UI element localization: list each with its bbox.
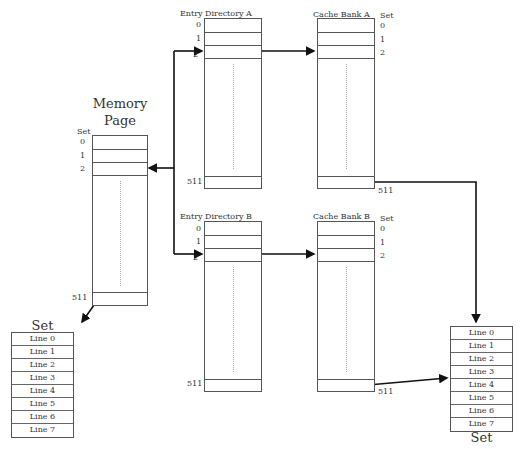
entry-dir-a-row-2 (205, 45, 261, 59)
memory-page-index-0: 0 (80, 137, 85, 146)
memory-page-box (92, 135, 148, 306)
entry-dir-b-index-0: 0 (196, 224, 201, 233)
right-set-line: Line 5 (451, 392, 512, 405)
entry-dir-b-index-1: 1 (196, 237, 201, 246)
connector-arrows (0, 0, 524, 449)
left-set-line: Line 6 (12, 411, 73, 424)
right-set-box: Line 0 Line 1 Line 2 Line 3 Line 4 Line … (450, 326, 513, 432)
cache-bank-b-row-1 (318, 235, 374, 249)
entry-dir-b-row-2 (205, 248, 261, 262)
cache-bank-b-row-2 (318, 248, 374, 262)
memory-page-index-1: 1 (80, 151, 85, 160)
entry-dir-a-index-0: 0 (196, 20, 201, 29)
memory-page-title-line1: Memory (84, 96, 156, 112)
left-set-line: Line 4 (12, 385, 73, 398)
cache-bank-b-title: Cache Bank B (313, 212, 370, 221)
right-set-line: Line 3 (451, 366, 512, 379)
left-set-line: Line 2 (12, 359, 73, 372)
ellipsis-dots (233, 64, 234, 169)
entry-dir-a-row-0 (205, 19, 261, 33)
entry-dir-a-index-1: 1 (196, 34, 201, 43)
cache-bank-a-index-1: 1 (380, 35, 385, 44)
cache-bank-b-index-511: 511 (378, 387, 393, 396)
entry-directory-b-title: Entry Directory B (180, 212, 252, 221)
right-set-line: Line 4 (451, 379, 512, 392)
cache-bank-a-box (317, 18, 375, 189)
entry-dir-b-index-2: 2 (193, 253, 198, 262)
memory-page-row-2 (93, 162, 147, 176)
memory-page-index-511: 511 (72, 293, 87, 302)
right-set-line: Line 6 (451, 405, 512, 418)
left-set-line: Line 5 (12, 398, 73, 411)
entry-dir-b-row-511 (205, 379, 261, 380)
ellipsis-dots (233, 267, 234, 372)
memory-page-row-0 (93, 136, 147, 150)
entry-directory-a-box (204, 18, 262, 189)
memory-page-title-line2: Page (84, 113, 156, 129)
right-set-title: Set (450, 430, 513, 446)
right-set-line: Line 0 (451, 327, 512, 340)
cache-bank-a-row-2 (318, 45, 374, 59)
entry-dir-a-row-1 (205, 32, 261, 46)
memory-page-row-511 (93, 292, 147, 293)
entry-dir-a-row-511 (205, 176, 261, 177)
entry-dir-b-index-511: 511 (187, 379, 202, 388)
cache-bank-b-row-0 (318, 222, 374, 236)
right-set-line: Line 1 (451, 340, 512, 353)
entry-dir-b-row-1 (205, 235, 261, 249)
entry-dir-b-row-0 (205, 222, 261, 236)
cache-bank-a-row-511 (318, 176, 374, 177)
cache-bank-a-row-0 (318, 19, 374, 33)
cache-bank-a-set-label: Set (380, 11, 393, 20)
left-set-line: Line 0 (12, 333, 73, 346)
cache-bank-b-row-511 (318, 379, 374, 380)
ellipsis-dots (120, 181, 121, 286)
left-set-line: Line 1 (12, 346, 73, 359)
ellipsis-dots (346, 64, 347, 169)
cache-bank-b-box (317, 221, 375, 392)
memory-page-set-label: Set (77, 127, 90, 136)
entry-dir-a-index-2: 2 (193, 50, 198, 59)
left-set-box: Line 0 Line 1 Line 2 Line 3 Line 4 Line … (11, 332, 74, 438)
memory-page-row-1 (93, 149, 147, 163)
cache-bank-b-set-label: Set (380, 214, 393, 223)
cache-bank-b-index-2: 2 (380, 251, 385, 260)
entry-directory-a-title: Entry Directory A (180, 9, 252, 18)
right-set-line: Line 2 (451, 353, 512, 366)
cache-bank-a-index-2: 2 (380, 48, 385, 57)
memory-page-index-2: 2 (80, 164, 85, 173)
left-set-line: Line 7 (12, 424, 73, 437)
ellipsis-dots (346, 267, 347, 372)
left-set-line: Line 3 (12, 372, 73, 385)
cache-bank-a-row-1 (318, 32, 374, 46)
entry-directory-b-box (204, 221, 262, 392)
entry-dir-a-index-511: 511 (187, 177, 202, 186)
cache-bank-a-index-0: 0 (380, 21, 385, 30)
cache-bank-b-index-0: 0 (380, 224, 385, 233)
cache-bank-a-index-511: 511 (378, 186, 393, 195)
cache-bank-b-index-1: 1 (380, 238, 385, 247)
